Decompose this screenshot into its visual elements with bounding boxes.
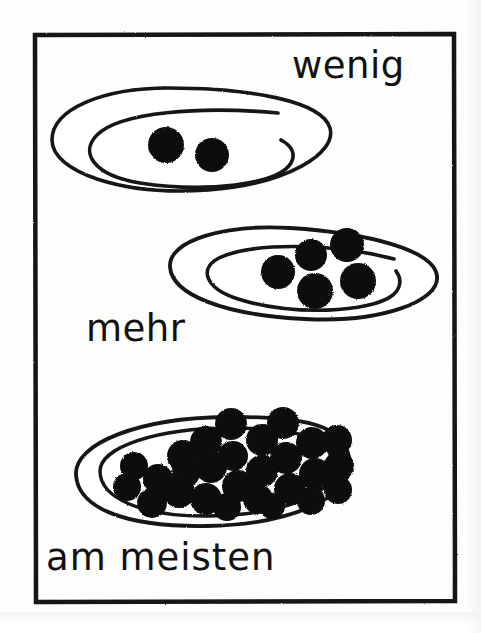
dot xyxy=(113,473,141,501)
label-wenig: wenig xyxy=(292,44,405,87)
dot xyxy=(195,138,229,172)
dot xyxy=(297,273,333,309)
dot xyxy=(163,476,195,508)
bowl-few xyxy=(52,88,331,191)
scan-edge-shading-right xyxy=(467,0,481,633)
worksheet-page: wenig mehr am meisten xyxy=(0,0,481,633)
dot xyxy=(148,127,184,163)
dot xyxy=(295,239,327,271)
dot xyxy=(213,493,241,521)
bowl-most xyxy=(76,407,354,526)
scan-edge-shading-bottom xyxy=(0,612,481,633)
dot xyxy=(330,228,364,262)
dot xyxy=(324,476,352,504)
dot xyxy=(340,263,376,299)
dot xyxy=(261,255,295,289)
dot xyxy=(259,493,285,519)
dot xyxy=(322,425,352,455)
bowl-more xyxy=(170,227,437,319)
label-mehr: mehr xyxy=(86,307,185,350)
dot xyxy=(195,451,227,483)
dot xyxy=(297,487,325,515)
dot xyxy=(137,488,167,518)
label-am-meisten: am meisten xyxy=(46,536,276,579)
